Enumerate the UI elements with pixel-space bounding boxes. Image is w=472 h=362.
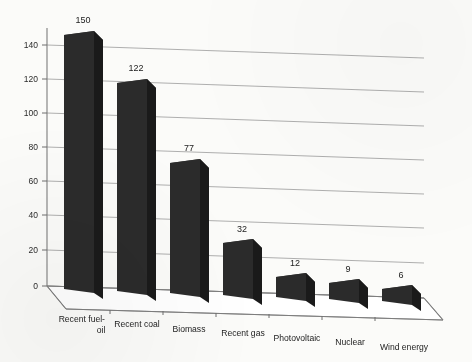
bar-chart: 140 120 100 80 60 40 20 0 150 xyxy=(0,0,472,362)
bar-value-label-5: 12 xyxy=(290,258,300,268)
category-label-nuclear: Nuclear xyxy=(335,337,365,347)
bar-front-face-5 xyxy=(276,273,306,301)
bar-value-label-4: 32 xyxy=(237,224,247,234)
gridline-120 xyxy=(47,79,424,92)
category-label-photovoltaic: Photovoltaic xyxy=(274,333,322,343)
y-tick-label-80: 80 xyxy=(29,142,39,152)
y-tick-label-0: 0 xyxy=(33,281,38,291)
y-tick-marks xyxy=(42,45,47,286)
gridline-100 xyxy=(47,113,424,126)
bar-front-face-2 xyxy=(117,79,147,295)
x-axis-category-labels: Recent fuel- oil Recent coal Biomass Rec… xyxy=(59,314,429,352)
bar-group-recent-fuel-oil: 150 xyxy=(64,15,103,299)
category-label-wind-energy: Wind energy xyxy=(380,342,429,352)
bar-front-face-3 xyxy=(170,159,200,297)
bar-group-biomass: 77 xyxy=(170,143,209,303)
bar-front-face-4 xyxy=(223,239,253,299)
category-label-recent-coal: Recent coal xyxy=(114,319,159,329)
y-tick-label-120: 120 xyxy=(24,74,38,84)
bar-value-label-3: 77 xyxy=(184,143,194,153)
bar-value-label-1: 150 xyxy=(75,15,90,25)
y-tick-label-140: 140 xyxy=(24,40,38,50)
y-tick-label-100: 100 xyxy=(24,108,38,118)
bar-front-face-6 xyxy=(329,279,359,303)
y-tick-label-20: 20 xyxy=(29,245,39,255)
category-label-recent-gas: Recent gas xyxy=(221,328,264,338)
bar-group-recent-coal: 122 xyxy=(117,63,156,301)
category-label-line-2: oil xyxy=(97,325,106,335)
bar-value-label-2: 122 xyxy=(128,63,143,73)
y-tick-label-60: 60 xyxy=(29,176,39,186)
category-label-recent-fuel-oil: Recent fuel- oil xyxy=(59,314,108,335)
bar-value-label-7: 6 xyxy=(398,270,403,280)
chart-canvas: 140 120 100 80 60 40 20 0 150 xyxy=(0,0,472,362)
category-label-line-1: Recent fuel- xyxy=(59,314,105,324)
bar-side-face-3 xyxy=(200,159,209,303)
bar-side-face-5 xyxy=(306,273,315,307)
bar-value-label-6: 9 xyxy=(345,264,350,274)
gridline-60 xyxy=(47,181,424,194)
gridline-80 xyxy=(47,147,424,160)
bar-side-face-1 xyxy=(94,31,103,299)
gridline-40 xyxy=(47,215,424,228)
bar-side-face-2 xyxy=(147,79,156,301)
bar-front-face-1 xyxy=(64,31,94,293)
category-label-biomass: Biomass xyxy=(173,324,206,334)
y-tick-label-40: 40 xyxy=(29,210,39,220)
gridline-140 xyxy=(47,45,424,58)
y-axis-tick-labels: 140 120 100 80 60 40 20 0 xyxy=(24,40,38,291)
bar-group-recent-gas: 32 xyxy=(223,224,262,305)
bar-side-face-4 xyxy=(253,239,262,305)
